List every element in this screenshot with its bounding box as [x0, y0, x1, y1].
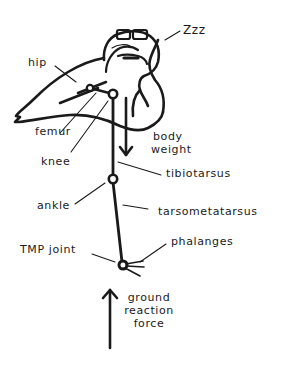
bird-leg-diagram: Zzz hip femur knee body weight tibiotars…: [0, 0, 284, 369]
phalanges-toes: [125, 261, 144, 276]
bird-neck-front: [133, 90, 140, 116]
label-body-weight: body weight: [151, 130, 192, 156]
label-grf-line3: force: [119, 317, 179, 330]
knee-joint: [109, 90, 117, 98]
label-phalanges: phalanges: [171, 235, 233, 248]
leader-ankle: [75, 183, 105, 204]
label-femur: femur: [35, 125, 71, 138]
leader-tibiotarsus: [118, 162, 161, 175]
ankle-joint: [109, 175, 117, 183]
hip-joint: [87, 85, 93, 91]
label-grf-line2: reaction: [119, 304, 179, 317]
label-zzz: Zzz: [183, 24, 206, 37]
leader-phalanges: [140, 244, 166, 262]
label-ground-reaction-force: ground reaction force: [119, 291, 179, 330]
bird-neck-outline: [149, 40, 163, 112]
label-body-weight-line2: weight: [151, 143, 192, 156]
label-ankle: ankle: [37, 199, 70, 212]
leader-tmp-joint: [92, 254, 115, 262]
label-knee: knee: [41, 155, 70, 168]
label-tarsometatarsus: tarsometatarsus: [158, 205, 258, 218]
leader-zzz: [165, 31, 180, 40]
tarsometatarsus-bone: [113, 182, 122, 262]
leader-tarsometatarsus: [123, 205, 148, 209]
label-grf-line1: ground: [119, 291, 179, 304]
label-hip: hip: [28, 56, 47, 69]
leader-knee: [71, 101, 108, 152]
label-tmp-joint: TMP joint: [20, 243, 76, 256]
label-body-weight-line1: body: [151, 130, 192, 143]
label-tibiotarsus: tibiotarsus: [166, 167, 231, 180]
